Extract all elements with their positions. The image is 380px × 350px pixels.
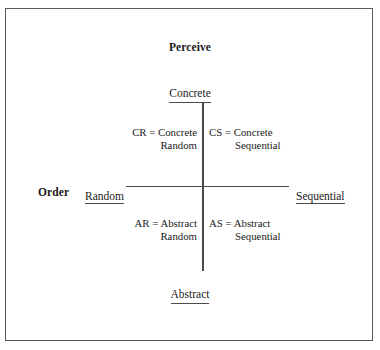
order-dimension-heading: Order [38,186,69,200]
quadrant-cs-line2: Sequential [209,139,281,152]
pole-label-concrete: Concrete [169,87,211,103]
quadrant-as-line1: AS = Abstract [209,217,281,230]
pole-label-concrete-wrap: Concrete [6,83,374,103]
quadrant-label-ar: AR = Abstract Random [135,217,197,242]
quadrant-cr-line1: CR = Concrete [132,126,197,139]
quadrant-cs-line1: CS = Concrete [209,126,281,139]
pole-label-random-wrap: Random [85,186,124,205]
quadrant-label-cs: CS = Concrete Sequential [209,126,281,151]
pole-label-random: Random [85,190,124,204]
quadrant-cr-line2: Random [132,139,197,152]
figure-frame: Perceive Order Concrete Abstract Random … [5,8,373,341]
pole-label-abstract-wrap: Abstract [6,284,374,304]
quadrant-as-line2: Sequential [209,230,281,243]
perceive-dimension-heading: Perceive [6,41,374,55]
pole-label-sequential: Sequential [296,190,345,204]
quadrant-label-cr: CR = Concrete Random [132,126,197,151]
quadrant-ar-line2: Random [135,230,197,243]
pole-label-abstract: Abstract [171,288,210,304]
quadrant-ar-line1: AR = Abstract [135,217,197,230]
pole-label-sequential-wrap: Sequential [296,186,345,205]
order-axis-line [126,186,289,188]
quadrant-label-as: AS = Abstract Sequential [209,217,281,242]
